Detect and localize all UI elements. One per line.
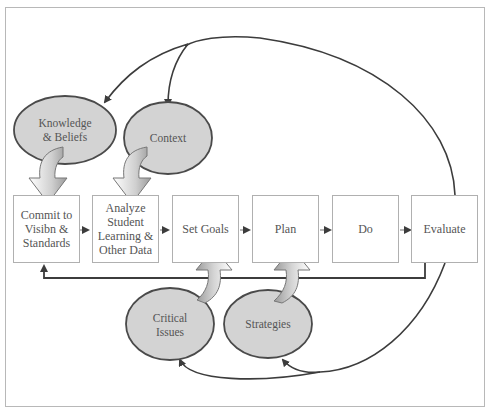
process-step-do: Do xyxy=(332,195,399,263)
process-step-label: Commit to Visibn & Standards xyxy=(21,208,73,250)
knowledge-beliefs-label: Knowledge & Beliefs xyxy=(20,110,110,150)
process-step-evaluate: Evaluate xyxy=(411,195,478,263)
strategies-label: Strategies xyxy=(228,306,308,342)
process-step-label: Set Goals xyxy=(182,222,228,236)
context-label: Context xyxy=(128,120,208,156)
process-step-label: Evaluate xyxy=(424,222,466,236)
process-step-label: Analyze Student Learning & Other Data xyxy=(98,201,154,257)
process-step-label: Do xyxy=(358,222,373,236)
process-step-set-goals: Set Goals xyxy=(172,195,239,263)
process-step-label: Plan xyxy=(275,222,296,236)
evaluate-to-commit-line xyxy=(44,263,425,278)
critical-issues-label: Critical Issues xyxy=(130,305,210,345)
process-step-commit: Commit to Visibn & Standards xyxy=(13,195,80,263)
process-step-analyze: Analyze Student Learning & Other Data xyxy=(92,195,159,263)
process-step-plan: Plan xyxy=(252,195,319,263)
